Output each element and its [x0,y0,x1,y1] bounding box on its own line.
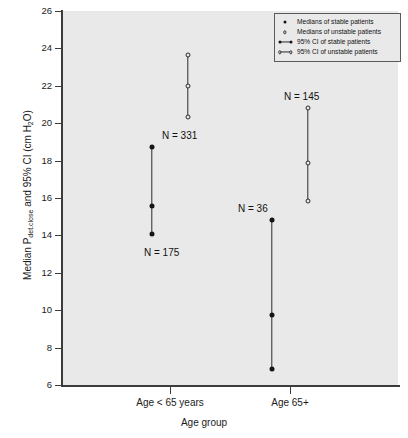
plot-area [62,11,398,386]
y-tick-label: 22 [41,81,52,91]
legend-label-ci-stable: 95% CI of stable patients [297,39,370,46]
y-axis-title-subscript-two: 2 [27,121,34,125]
y-tick-mark [55,385,62,386]
y-tick-mark [55,86,62,87]
x-tick-label: Age < 65 years [136,398,204,408]
y-tick-label: 16 [41,193,52,203]
y-tick-label: 24 [41,43,52,53]
y-axis-title-suffix: and 95% CI (cm H [22,125,33,209]
chart-figure: 26242220181614121086 Age < 65 yearsAge 6… [0,0,408,438]
x-tick-mark [290,387,291,394]
y-tick-mark [55,11,62,12]
legend-item-ci-unstable: 95% CI of unstable patients [277,48,397,58]
x-axis-line [61,385,400,387]
y-tick-label: 10 [41,305,52,315]
y-axis-title-subscript: det.close [27,210,34,238]
y-tick-label: 6 [47,380,52,390]
x-axis-title: Age group [0,418,408,428]
y-tick-mark [55,310,62,311]
x-tick-mark [170,387,171,394]
legend-item-ci-stable: 95% CI of stable patients [277,38,397,48]
legend-label-medians-stable: Medians of stable patients [297,19,374,26]
y-tick-label: 26 [41,6,52,16]
y-axis-title-prefix: Median P [22,238,33,280]
y-tick-label: 18 [41,156,52,166]
legend-key-open-ci-icon [277,48,297,57]
y-tick-label: 8 [47,343,52,353]
y-tick-mark [55,198,62,199]
y-tick-mark [55,273,62,274]
legend-item-medians-unstable: Medians of unstable patients [277,28,397,38]
legend-item-medians-stable: Medians of stable patients [277,18,397,28]
y-axis-title: Median Pdet.close and 95% CI (cm H2O) [23,75,33,315]
x-tick-label: Age 65+ [271,398,309,408]
legend-key-filled-ci-icon [277,38,297,47]
legend-key-open-dot-icon [277,28,297,37]
y-tick-mark [55,348,62,349]
chart-legend: Medians of stable patients Medians of un… [274,13,401,62]
y-tick-label: 12 [41,268,52,278]
y-tick-mark [55,123,62,124]
y-tick-label: 20 [41,118,52,128]
y-axis-title-suffix-two: O) [22,110,33,121]
y-tick-label: 14 [41,230,52,240]
legend-key-filled-dot-icon [277,18,297,27]
y-tick-mark [55,161,62,162]
y-tick-mark [55,48,62,49]
y-tick-mark [55,235,62,236]
legend-label-ci-unstable: 95% CI of unstable patients [297,49,378,56]
legend-label-medians-unstable: Medians of unstable patients [297,29,381,36]
